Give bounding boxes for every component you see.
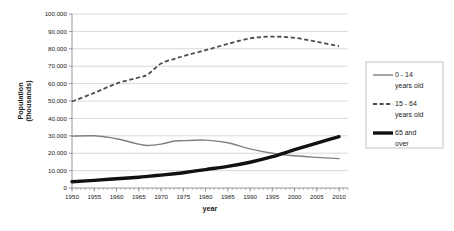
x-axis-tick-label: 2000 bbox=[288, 193, 302, 200]
y-axis-tick-label: 10,000 bbox=[48, 167, 67, 174]
legend-item-label: 0 - 14 bbox=[395, 71, 413, 78]
y-axis-tick-label: 50,000 bbox=[48, 97, 67, 104]
y-axis-tick-label: 0 bbox=[64, 184, 68, 191]
legend-item-label: 65 and bbox=[395, 129, 417, 136]
legend-item-label: years old bbox=[395, 82, 424, 90]
x-axis-tick-label: 1950 bbox=[65, 193, 79, 200]
legend-item-label: 15 - 64 bbox=[395, 100, 417, 107]
x-axis-title: year bbox=[203, 204, 218, 213]
x-axis-tick-label: 1965 bbox=[132, 193, 146, 200]
y-axis-tick-label: 90,000 bbox=[48, 28, 67, 35]
x-axis-tick-label: 1985 bbox=[221, 193, 235, 200]
x-axis-tick-label: 1960 bbox=[110, 193, 124, 200]
x-axis-tick-label: 1970 bbox=[154, 193, 168, 200]
y-axis-tick-label: 100,000 bbox=[45, 10, 68, 17]
x-axis-tick-label: 1955 bbox=[87, 193, 101, 200]
x-axis-tick-label: 1975 bbox=[176, 193, 190, 200]
y-axis-title: Population(thousands) bbox=[16, 80, 33, 122]
y-axis-tick-label: 80,000 bbox=[48, 45, 67, 52]
x-axis-tick-label: 1980 bbox=[199, 193, 213, 200]
population-line-chart: 010,00020,00030,00040,00050,00060,00070,… bbox=[0, 0, 454, 231]
legend-item-label: over bbox=[395, 140, 409, 147]
y-axis-tick-label: 40,000 bbox=[48, 115, 67, 122]
y-axis-tick-label: 30,000 bbox=[48, 132, 67, 139]
x-axis-tick-label: 2010 bbox=[332, 193, 346, 200]
x-axis-tick-label: 1995 bbox=[265, 193, 279, 200]
y-axis-tick-label: 60,000 bbox=[48, 80, 67, 87]
y-axis-tick-label: 70,000 bbox=[48, 62, 67, 69]
x-axis-tick-label: 1990 bbox=[243, 193, 257, 200]
x-axis-tick-label: 2005 bbox=[310, 193, 324, 200]
y-axis-title-line2: (thousands) bbox=[24, 80, 33, 122]
y-axis-tick-label: 20,000 bbox=[48, 149, 67, 156]
legend-item-label: years old bbox=[395, 111, 424, 119]
chart-canvas: 010,00020,00030,00040,00050,00060,00070,… bbox=[0, 0, 454, 231]
